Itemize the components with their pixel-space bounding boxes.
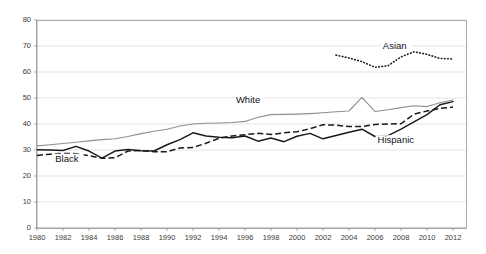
x-tick-label-2012: 2012 — [445, 233, 462, 242]
y-tick-label-30: 30 — [23, 145, 31, 154]
series-line-black — [37, 107, 453, 158]
x-tick-label-1988: 1988 — [133, 233, 150, 242]
series-label-hispanic: Hispanic — [378, 134, 415, 145]
x-tick-label-1998: 1998 — [263, 233, 280, 242]
y-tick-label-40: 40 — [23, 119, 31, 128]
x-tick-label-2004: 2004 — [341, 233, 358, 242]
y-tick-label-0: 0 — [27, 223, 31, 232]
plot-frame — [37, 21, 467, 229]
x-tick-label-1980: 1980 — [29, 233, 46, 242]
chart-container: 01020304050607080 1980198219841986198819… — [0, 0, 486, 254]
axis-layer — [34, 20, 466, 231]
y-tick-label-50: 50 — [23, 93, 31, 102]
x-tick-labels: 1980198219841986198819901992199419961998… — [29, 233, 462, 242]
x-tick-label-2000: 2000 — [289, 233, 306, 242]
series-label-asian: Asian — [383, 40, 407, 51]
x-tick-label-1982: 1982 — [55, 233, 72, 242]
series-line-hispanic — [37, 102, 453, 158]
y-tick-label-80: 80 — [23, 15, 31, 24]
y-tick-label-70: 70 — [23, 41, 31, 50]
x-tick-label-2002: 2002 — [315, 233, 332, 242]
x-tick-label-2010: 2010 — [419, 233, 436, 242]
x-tick-label-1984: 1984 — [81, 233, 98, 242]
y-tick-label-60: 60 — [23, 67, 31, 76]
series-line-asian — [336, 52, 453, 68]
x-tick-label-1994: 1994 — [211, 233, 228, 242]
y-tick-label-20: 20 — [23, 171, 31, 180]
x-tick-label-1996: 1996 — [237, 233, 254, 242]
x-tick-label-1992: 1992 — [185, 233, 202, 242]
y-tick-label-10: 10 — [23, 197, 31, 206]
x-tick-label-1990: 1990 — [159, 233, 176, 242]
line-chart: 01020304050607080 1980198219841986198819… — [0, 0, 486, 254]
x-tick-label-2008: 2008 — [393, 233, 410, 242]
y-tick-labels: 01020304050607080 — [23, 15, 31, 232]
series-label-black: Black — [55, 153, 78, 164]
series-label-white: White — [236, 94, 260, 105]
x-tick-label-1986: 1986 — [107, 233, 124, 242]
x-tick-label-2006: 2006 — [367, 233, 384, 242]
